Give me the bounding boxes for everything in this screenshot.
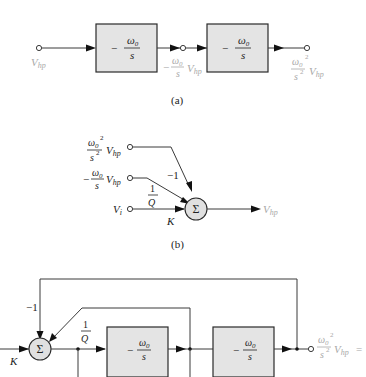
input-1-label: ω0 2 s 2 Vhp xyxy=(87,134,121,163)
svg-text:−: − xyxy=(83,173,89,185)
svg-text:Q: Q xyxy=(148,197,156,208)
svg-text:s: s xyxy=(142,351,146,362)
svg-text:s: s xyxy=(95,180,99,191)
svg-text:Vhp: Vhp xyxy=(187,62,202,76)
gain-k: K xyxy=(166,215,175,227)
arrow-head xyxy=(86,45,96,52)
part-c: −1 1 Q K Σ − ω0 s − ω0 s xyxy=(0,279,362,377)
block-denominator: s xyxy=(130,49,134,61)
output-label: ω0 2 s 2 Vhp xyxy=(291,53,324,82)
integrator-block-2 xyxy=(213,327,274,377)
mid-label: − ω0 s Vhp xyxy=(163,55,202,79)
arrow-head xyxy=(96,346,106,353)
arrow-head xyxy=(186,181,192,192)
input-1-terminal xyxy=(127,144,132,149)
svg-text:1: 1 xyxy=(150,183,155,194)
svg-text:−: − xyxy=(222,42,228,54)
part-b: ω0 2 s 2 Vhp −1 − ω0 s Vhp 1 Q Vi K xyxy=(83,134,278,251)
arrow-head xyxy=(197,45,207,52)
svg-text:s: s xyxy=(241,49,245,61)
svg-text:2: 2 xyxy=(305,53,309,61)
output-terminal xyxy=(304,45,309,50)
input-label: Vhp xyxy=(31,56,46,70)
svg-text:ω0: ω0 xyxy=(172,55,183,68)
svg-text:s: s xyxy=(176,68,180,79)
caption-a: (a) xyxy=(171,94,184,107)
input-2-label: − ω0 s Vhp xyxy=(83,167,121,191)
block-diagram: Vhp − ω0 s − ω0 s Vhp − ω0 s ω0 xyxy=(0,0,366,377)
arrow-head xyxy=(170,45,180,52)
svg-text:−: − xyxy=(233,344,239,356)
wire xyxy=(133,178,186,201)
output-label: Vhp xyxy=(263,203,278,217)
block-sign: − xyxy=(111,42,117,54)
svg-text:−: − xyxy=(163,61,169,73)
integrator-block-1 xyxy=(107,327,168,377)
input-2-terminal xyxy=(127,175,132,180)
svg-text:2: 2 xyxy=(100,134,104,142)
svg-text:Vhp: Vhp xyxy=(334,343,349,357)
svg-text:s: s xyxy=(248,351,252,362)
svg-text:s: s xyxy=(90,152,94,163)
svg-text:2: 2 xyxy=(96,149,100,157)
svg-text:Vhp: Vhp xyxy=(309,65,324,79)
output-terminal xyxy=(308,346,313,351)
arrow-head xyxy=(176,346,186,353)
gain-minus-one: −1 xyxy=(26,301,38,313)
svg-text:s: s xyxy=(294,71,298,82)
gain-minus-one: −1 xyxy=(167,169,179,181)
input-3-terminal xyxy=(127,206,132,211)
svg-text:1: 1 xyxy=(83,319,88,330)
input-3-label: Vi xyxy=(113,203,122,217)
svg-text:Q: Q xyxy=(81,333,89,344)
part-a: Vhp − ω0 s − ω0 s Vhp − ω0 s ω0 xyxy=(31,24,324,107)
mid-terminal xyxy=(180,45,185,50)
arrow-head xyxy=(251,206,261,213)
svg-text:=: = xyxy=(356,343,362,355)
arrow-head xyxy=(175,206,185,213)
wire xyxy=(133,147,190,188)
svg-text:ω0: ω0 xyxy=(92,167,103,180)
arrow-head xyxy=(19,346,29,353)
svg-text:Vhp: Vhp xyxy=(106,144,121,158)
output-label: ω0 2 s 2 Vhp = xyxy=(317,331,362,360)
arrow-head xyxy=(282,346,292,353)
svg-text:2: 2 xyxy=(326,346,330,354)
svg-text:2: 2 xyxy=(300,68,304,76)
svg-text:Σ: Σ xyxy=(37,342,44,356)
gain-k: K xyxy=(9,355,18,367)
svg-text:2: 2 xyxy=(330,331,334,339)
input-terminal xyxy=(36,45,41,50)
svg-text:Σ: Σ xyxy=(193,202,200,216)
junction-dot xyxy=(295,347,299,351)
svg-text:s: s xyxy=(320,349,324,360)
svg-text:−: − xyxy=(127,344,133,356)
caption-b: (b) xyxy=(171,238,184,251)
svg-text:Vhp: Vhp xyxy=(106,173,121,187)
arrow-head xyxy=(274,45,284,52)
